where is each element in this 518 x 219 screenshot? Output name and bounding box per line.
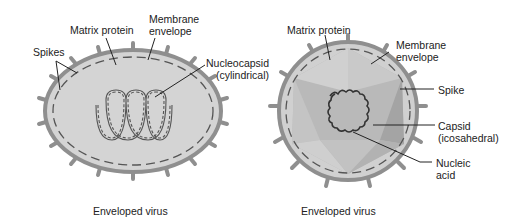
label-capsid-line1: Capsid [438, 120, 499, 132]
left-membrane-envelope [45, 50, 221, 172]
label-membrane-line1: Membrane [149, 13, 199, 25]
label-spikes: Spikes [33, 46, 65, 58]
label-nucleocapsid-line2: (cylindrical) [206, 69, 269, 81]
label-nucleocapsid: Nucleocapsid (cylindrical) [206, 57, 269, 81]
label-capsid: Capsid (icosahedral) [438, 120, 499, 144]
label-membrane-right-line1: Membrane [396, 39, 446, 51]
label-nucleocapsid-line1: Nucleocapsid [206, 57, 269, 69]
caption-left: Enveloped virus [93, 205, 168, 217]
label-membrane-line2: envelope [149, 25, 199, 37]
caption-right: Enveloped virus [301, 205, 376, 217]
label-matrix-protein-right: Matrix protein [287, 24, 351, 36]
label-membrane-envelope-right: Membrane envelope [396, 39, 446, 63]
label-nucleic-line2: acid [436, 169, 470, 181]
label-matrix-protein-left: Matrix protein [70, 24, 134, 36]
label-nucleic-acid: Nucleic acid [436, 157, 470, 181]
label-capsid-line2: (icosahedral) [438, 132, 499, 144]
label-membrane-right-line2: envelope [396, 51, 446, 63]
label-membrane-envelope-left: Membrane envelope [149, 13, 199, 37]
label-spike: Spike [438, 84, 464, 96]
label-nucleic-line1: Nucleic [436, 157, 470, 169]
